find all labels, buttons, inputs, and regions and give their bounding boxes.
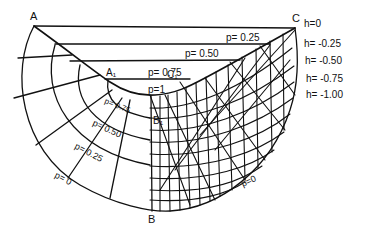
point-label-a1: A₁ xyxy=(106,67,117,78)
label-h0: h=0 xyxy=(304,18,321,29)
point-label-c: C xyxy=(292,12,300,24)
label-h-100: h= -1.00 xyxy=(306,89,343,100)
flow-net-diagram: A A₁ C C₁ B₁ B p= 0.25 p= 0.50 p= 0.75 p… xyxy=(0,0,366,226)
line-h0-top xyxy=(34,26,295,28)
radial-left-3 xyxy=(36,90,112,145)
label-top-p075: p= 0.75 xyxy=(148,67,182,78)
line-b1-b xyxy=(151,96,152,211)
label-h-025: h= -0.25 xyxy=(304,38,341,49)
label-h-075: h= -0.75 xyxy=(306,73,343,84)
label-left-p0: p= 0 xyxy=(53,170,73,187)
arc-p025-left xyxy=(51,45,150,165)
point-label-a: A xyxy=(30,10,38,22)
point-label-b: B xyxy=(148,213,155,225)
point-label-b1: B₁ xyxy=(153,115,164,126)
radial-left-2 xyxy=(14,75,100,98)
radial-left-4 xyxy=(68,98,122,178)
radial-left-1 xyxy=(18,55,72,58)
radial-left-5 xyxy=(110,100,130,198)
label-h-050: h= -0.50 xyxy=(305,55,342,66)
label-top-p1: p=1 xyxy=(148,84,165,95)
label-left-p025: p= 0.25 xyxy=(73,141,104,164)
label-left-p075: p= 0.75 xyxy=(103,97,132,116)
line-p050 xyxy=(70,60,240,61)
label-top-p025: p= 0.25 xyxy=(226,32,260,43)
label-top-p050: p= 0.50 xyxy=(185,48,219,59)
